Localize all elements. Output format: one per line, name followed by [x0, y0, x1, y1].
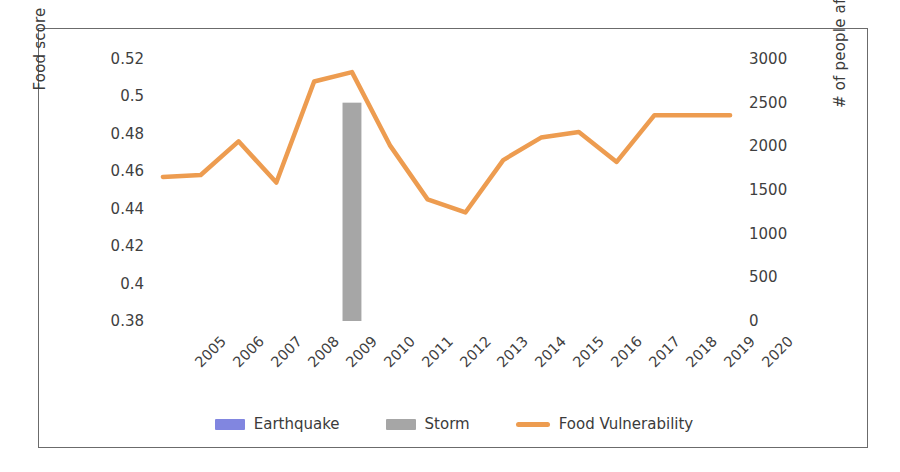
- plot-area: 0.520.50.480.460.440.420.40.38 300025002…: [39, 29, 869, 449]
- legend-line-swatch: [516, 422, 550, 427]
- legend-bar-swatch: [215, 419, 245, 430]
- legend-item-food-vulnerability[interactable]: Food Vulnerability: [516, 415, 694, 433]
- bar-storm-2010: [343, 103, 362, 321]
- legend-item-earthquake[interactable]: Earthquake: [215, 415, 340, 433]
- chart-figure: Food score # of people affected 0.520.50…: [38, 28, 868, 448]
- chart-canvas: [39, 29, 869, 449]
- legend-item-label: Food Vulnerability: [559, 415, 694, 433]
- legend-item-label: Storm: [425, 415, 470, 433]
- legend-item-label: Earthquake: [254, 415, 340, 433]
- chart-legend: EarthquakeStormFood Vulnerability: [39, 415, 869, 433]
- bars-group: [343, 103, 362, 321]
- line-food-vulnerability: [163, 72, 730, 212]
- legend-bar-swatch: [386, 419, 416, 430]
- lines-group: [163, 72, 730, 212]
- legend-item-storm[interactable]: Storm: [386, 415, 470, 433]
